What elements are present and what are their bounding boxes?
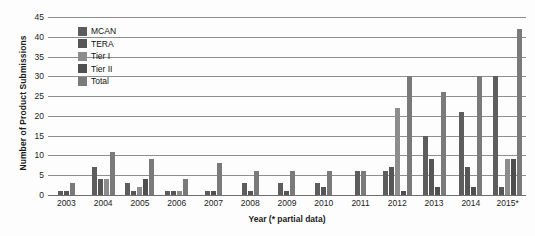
x-axis-title: Year (* partial data) bbox=[48, 214, 526, 224]
x-axis-tick-labels: 2003200420052006200720082009201020112012… bbox=[48, 198, 526, 212]
bar-tier-i[interactable] bbox=[104, 179, 109, 195]
bar-tera[interactable] bbox=[499, 187, 504, 195]
bar-mcan[interactable] bbox=[493, 76, 498, 195]
bar-total[interactable] bbox=[441, 92, 446, 195]
bar-total[interactable] bbox=[517, 29, 522, 195]
bar-group-2012 bbox=[379, 17, 416, 195]
legend-item-total[interactable]: Total bbox=[78, 76, 116, 86]
y-axis-tick-label: 35 bbox=[24, 52, 44, 62]
bar-total[interactable] bbox=[254, 171, 259, 195]
x-axis-tick-label: 2006 bbox=[167, 198, 186, 208]
bar-total[interactable] bbox=[70, 183, 75, 195]
gridline bbox=[48, 195, 526, 196]
legend-item-tera[interactable]: TERA bbox=[78, 39, 116, 49]
x-axis-tick-label: 2014 bbox=[461, 198, 480, 208]
legend-item-label: TERA bbox=[91, 39, 114, 49]
x-axis-tick-label: 2010 bbox=[314, 198, 333, 208]
bar-tera[interactable] bbox=[98, 179, 103, 195]
bar-mcan[interactable] bbox=[125, 183, 130, 195]
bar-tier-ii[interactable] bbox=[435, 187, 440, 195]
bar-tera[interactable] bbox=[465, 167, 470, 195]
bar-tier-i[interactable] bbox=[505, 159, 510, 195]
bar-tera[interactable] bbox=[171, 191, 176, 195]
y-axis-tick-label: 40 bbox=[24, 32, 44, 42]
bar-total[interactable] bbox=[407, 76, 412, 195]
bar-tera[interactable] bbox=[321, 187, 326, 195]
bar-tera[interactable] bbox=[429, 159, 434, 195]
bar-mcan[interactable] bbox=[355, 171, 360, 195]
bar-tera[interactable] bbox=[284, 191, 289, 195]
bar-total[interactable] bbox=[290, 171, 295, 195]
legend-item-tier-ii[interactable]: Tier II bbox=[78, 64, 116, 74]
legend-item-mcan[interactable]: MCAN bbox=[78, 26, 116, 36]
bar-total[interactable] bbox=[217, 163, 222, 195]
y-axis-tick-label: 25 bbox=[24, 91, 44, 101]
x-axis-tick-label: 2005 bbox=[130, 198, 149, 208]
bar-mcan[interactable] bbox=[459, 112, 464, 195]
bar-group-2014 bbox=[452, 17, 489, 195]
bar-mcan[interactable] bbox=[383, 171, 388, 195]
x-axis-tick-label: 2003 bbox=[57, 198, 76, 208]
bar-group-2013 bbox=[416, 17, 453, 195]
bar-tier-i[interactable] bbox=[395, 108, 400, 195]
legend-item-tier-i[interactable]: Tier I bbox=[78, 51, 116, 61]
legend-swatch-icon bbox=[78, 77, 87, 86]
bar-mcan[interactable] bbox=[92, 167, 97, 195]
bar-tera[interactable] bbox=[248, 191, 253, 195]
legend-item-label: Tier II bbox=[91, 64, 112, 74]
bar-mcan[interactable] bbox=[278, 183, 283, 195]
y-axis-tick-label: 20 bbox=[24, 111, 44, 121]
bar-tier-ii[interactable] bbox=[211, 191, 216, 195]
bar-group-2006 bbox=[158, 17, 195, 195]
bar-chart: Number of Product Submissions 4540353025… bbox=[0, 0, 535, 236]
x-axis-tick-label: 2004 bbox=[94, 198, 113, 208]
x-axis-tick-label: 2012 bbox=[388, 198, 407, 208]
bar-mcan[interactable] bbox=[58, 191, 63, 195]
y-axis-tick-label: 5 bbox=[24, 170, 44, 180]
bar-group-2007 bbox=[195, 17, 232, 195]
bar-tera[interactable] bbox=[64, 191, 69, 195]
bar-group-2015 bbox=[489, 17, 526, 195]
y-axis-tick-label: 15 bbox=[24, 131, 44, 141]
bar-tier-ii[interactable] bbox=[143, 179, 148, 195]
legend-item-label: MCAN bbox=[91, 26, 116, 36]
bar-tier-ii[interactable] bbox=[401, 191, 406, 195]
legend-swatch-icon bbox=[78, 52, 87, 61]
x-axis-tick-label: 2009 bbox=[278, 198, 297, 208]
bar-mcan[interactable] bbox=[315, 183, 320, 195]
bar-tera[interactable] bbox=[389, 167, 394, 195]
x-axis-tick-label: 2013 bbox=[425, 198, 444, 208]
legend-item-label: Tier I bbox=[91, 51, 110, 61]
y-axis-tick-label: 0 bbox=[24, 190, 44, 200]
bar-tier-i[interactable] bbox=[177, 191, 182, 195]
bar-total[interactable] bbox=[361, 171, 366, 195]
legend-swatch-icon bbox=[78, 39, 87, 48]
x-axis-tick-label: 2008 bbox=[241, 198, 260, 208]
legend-swatch-icon bbox=[78, 64, 87, 73]
bar-total[interactable] bbox=[110, 152, 115, 196]
y-axis-tick-label: 30 bbox=[24, 71, 44, 81]
y-axis-tick-label: 10 bbox=[24, 150, 44, 160]
bar-total[interactable] bbox=[183, 179, 188, 195]
bar-group-2008 bbox=[232, 17, 269, 195]
bar-total[interactable] bbox=[149, 159, 154, 195]
bar-group-2010 bbox=[305, 17, 342, 195]
bar-tier-i[interactable] bbox=[137, 187, 142, 195]
bar-mcan[interactable] bbox=[423, 136, 428, 195]
bar-group-2009 bbox=[269, 17, 306, 195]
bar-series-layer bbox=[48, 17, 526, 195]
bar-mcan[interactable] bbox=[205, 191, 210, 195]
bar-mcan[interactable] bbox=[165, 191, 170, 195]
x-axis-tick-label: 2015* bbox=[497, 198, 519, 208]
bar-tier-ii[interactable] bbox=[471, 187, 476, 195]
bar-group-2005 bbox=[122, 17, 159, 195]
legend-item-label: Total bbox=[91, 76, 109, 86]
y-axis-tick-label: 45 bbox=[24, 12, 44, 22]
bar-tera[interactable] bbox=[131, 191, 136, 195]
bar-tier-ii[interactable] bbox=[511, 159, 516, 195]
bar-total[interactable] bbox=[477, 76, 482, 195]
bar-mcan[interactable] bbox=[242, 183, 247, 195]
bar-total[interactable] bbox=[327, 171, 332, 195]
chart-legend: MCANTERATier ITier IITotal bbox=[78, 26, 116, 86]
x-axis-tick-label: 2007 bbox=[204, 198, 223, 208]
